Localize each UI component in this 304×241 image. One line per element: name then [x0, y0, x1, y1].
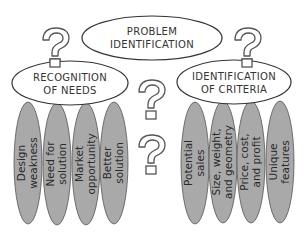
right-branch-line2: OF CRITERIA	[201, 84, 267, 95]
item-line2: and profit	[250, 137, 262, 188]
item-market-opportunity: Market opportunity	[72, 103, 100, 225]
problem-identification-node: PROBLEM IDENTIFICATION	[82, 16, 222, 60]
item-line1: Potential	[182, 140, 194, 186]
diagram-canvas: PROBLEM IDENTIFICATION Design weakness N…	[0, 0, 304, 241]
left-branch-line1: RECOGNITION	[33, 72, 107, 83]
right-qmark-box	[242, 59, 252, 67]
item-line1: Need for	[44, 141, 56, 187]
left-qmark-box	[50, 59, 60, 67]
item-design-weakness: Design weakness	[14, 102, 42, 224]
left-branch-line2: OF NEEDS	[43, 85, 96, 96]
item-line1: Unique	[267, 143, 279, 180]
item-better-solution: Better solution	[100, 102, 128, 224]
item-line1: Design	[15, 145, 27, 181]
item-potential-sales: Potential sales	[181, 102, 209, 224]
item-line2: features	[279, 140, 291, 183]
item-line2: solution	[56, 143, 68, 185]
item-line2: opportunity	[85, 133, 97, 194]
item-line2: solution	[113, 142, 125, 184]
right-branch-line1: IDENTIFICATION	[192, 71, 276, 82]
item-unique-features: Unique features	[266, 101, 294, 223]
item-price-cost-profit: Price, cost, and profit	[237, 101, 265, 223]
right-items: Potential sales Size, weight, and geomet…	[181, 101, 294, 224]
item-line1: Better	[101, 146, 113, 179]
item-size-weight-geometry: Size, weight, and geometry	[209, 101, 237, 223]
identification-of-criteria-node: IDENTIFICATION OF CRITERIA	[177, 60, 291, 104]
item-line1: Market	[73, 146, 85, 182]
item-line1: Size, weight,	[210, 129, 222, 196]
root-line1: PROBLEM	[127, 26, 177, 37]
item-line2: sales	[194, 150, 206, 177]
left-items: Design weakness Need for solution Market…	[14, 102, 128, 225]
item-line2: weakness	[27, 137, 39, 189]
question-mark-icon	[139, 135, 165, 174]
recognition-of-needs-node: RECOGNITION OF NEEDS	[12, 61, 128, 105]
question-mark-icon	[139, 80, 165, 119]
item-need-for-solution: Need for solution	[43, 103, 71, 225]
item-line1: Price, cost,	[238, 133, 250, 190]
root-line2: IDENTIFICATION	[110, 39, 194, 50]
item-line2: and geometry	[222, 125, 234, 199]
